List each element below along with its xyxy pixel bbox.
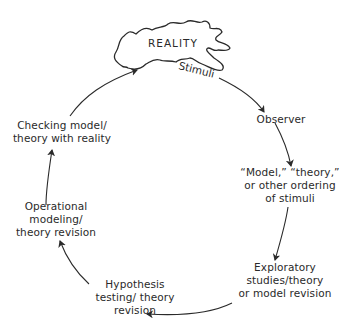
stimuli-label: Stimuli — [178, 59, 216, 79]
node-exploratory-line-2: studies/theory — [230, 274, 340, 287]
node-checking: Checking model/ theory with reality — [2, 119, 122, 145]
arrow-model-to-exploratory — [275, 207, 288, 260]
node-model-line-1: “Model,” “theory,” — [232, 166, 348, 179]
arrow-stimuli-to-observer — [219, 78, 264, 112]
node-hypothesis-line-1: Hypothesis — [80, 278, 190, 291]
arrow-operational-to-checking — [46, 150, 52, 205]
arrow-observer-to-model — [275, 123, 291, 166]
node-operational-line-2: modeling/ — [0, 213, 112, 226]
node-exploratory: Exploratory studies/theory or model revi… — [230, 261, 340, 300]
node-observer-line-1: Observer — [246, 113, 316, 126]
node-operational: Operational modeling/ theory revision — [0, 200, 112, 239]
node-hypothesis: Hypothesis testing/ theory revision — [80, 278, 190, 317]
node-exploratory-line-1: Exploratory — [230, 261, 340, 274]
node-model-line-3: of stimuli — [232, 192, 348, 205]
node-hypothesis-line-2: testing/ theory — [80, 291, 190, 304]
node-operational-line-3: theory revision — [0, 226, 112, 239]
arrow-checking-to-reality — [70, 70, 137, 116]
node-model-line-2: or other ordering — [232, 179, 348, 192]
reality-label: REALITY — [148, 37, 198, 49]
node-operational-line-1: Operational — [0, 200, 112, 213]
node-hypothesis-line-3: revision — [80, 304, 190, 317]
node-checking-line-1: Checking model/ — [2, 119, 122, 132]
node-checking-line-2: theory with reality — [2, 132, 122, 145]
node-model: “Model,” “theory,” or other ordering of … — [232, 166, 348, 205]
node-observer: Observer — [246, 113, 316, 126]
node-exploratory-line-3: or model revision — [230, 287, 340, 300]
